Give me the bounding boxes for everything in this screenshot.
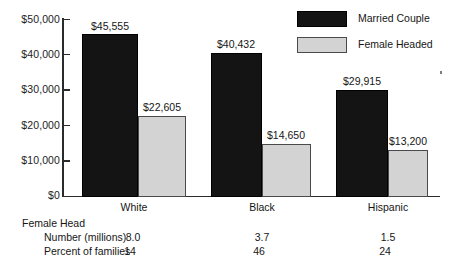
legend-item-female-headed: Female Headed — [297, 36, 433, 53]
legend-swatch-black-icon — [297, 11, 347, 27]
bar-value-white-married-couple: $45,555 — [75, 21, 145, 32]
y-tick-10000 — [62, 160, 70, 161]
y-tick-label-30000: $30,000 — [2, 84, 60, 95]
table-value-black-number: 3.7 — [239, 232, 285, 243]
bar-value-black-married-couple: $40,432 — [201, 39, 271, 50]
table-heading-female-head: Female Head — [22, 218, 85, 229]
category-label-hispanic: Hispanic — [353, 202, 423, 213]
category-label-white: White — [99, 202, 169, 213]
chart-legend: Married Couple Female Headed — [297, 10, 433, 62]
y-tick-label-0: $0 — [2, 190, 60, 201]
bar-white-female-headed — [138, 116, 186, 197]
bar-hispanic-female-headed — [388, 150, 428, 197]
category-label-black: Black — [227, 202, 297, 213]
legend-swatch-gray-icon — [297, 37, 347, 53]
legend-label-married-couple: Married Couple — [358, 13, 430, 24]
table-value-hispanic-number: 1.5 — [365, 232, 411, 243]
female-head-table: Female Head Number (millions) 8.0 3.7 1.… — [0, 214, 457, 264]
bar-value-hispanic-female-headed: $13,200 — [373, 136, 443, 147]
table-value-white-number: 8.0 — [110, 232, 156, 243]
table-value-white-percent: 14 — [107, 246, 153, 257]
table-value-black-percent: 46 — [236, 246, 282, 257]
y-tick-30000 — [62, 89, 70, 90]
bar-value-hispanic-married-couple: $29,915 — [327, 76, 397, 87]
bar-value-black-female-headed: $14,650 — [251, 130, 321, 141]
y-tick-label-40000: $40,000 — [2, 49, 60, 60]
y-tick-50000 — [62, 19, 70, 20]
bar-black-married-couple — [211, 53, 262, 197]
y-tick-20000 — [62, 125, 70, 126]
bar-value-white-female-headed: $22,605 — [127, 102, 197, 113]
bar-white-married-couple — [82, 34, 138, 196]
y-axis-line — [62, 18, 64, 197]
y-tick-40000 — [62, 54, 70, 55]
y-tick-label-50000: $50,000 — [2, 14, 60, 25]
table-value-hispanic-percent: 24 — [362, 246, 408, 257]
legend-item-married-couple: Married Couple — [297, 10, 433, 27]
y-tick-label-20000: $20,000 — [2, 120, 60, 131]
y-tick-label-10000: $10,000 — [2, 155, 60, 166]
legend-label-female-headed: Female Headed — [358, 39, 433, 50]
bar-black-female-headed — [262, 144, 311, 197]
scan-artifact-speck — [440, 71, 442, 74]
bar-chart-figure: $50,000 $40,000 $30,000 $20,000 $10,000 … — [0, 0, 457, 275]
